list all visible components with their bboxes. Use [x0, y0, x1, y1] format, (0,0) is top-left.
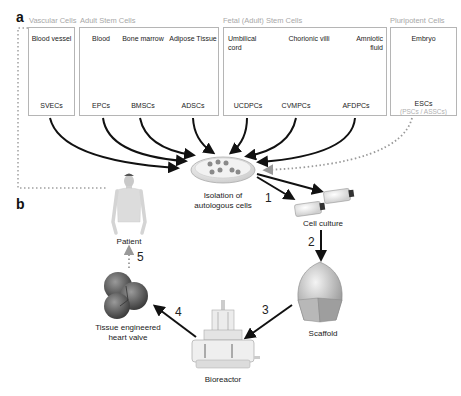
- source-adipose-tissue: Adipose Tissue: [168, 34, 218, 43]
- step-number-2: 2: [308, 235, 315, 249]
- cell-type-epcs: EPCs: [84, 102, 118, 109]
- cell-type-svecs: SVECs: [28, 102, 75, 109]
- petri-dish-icon: [191, 157, 255, 183]
- group-label-pluripotent: Pluripotent Cells: [390, 16, 445, 25]
- scaffold-label: Scaffold: [295, 329, 351, 339]
- cell-type-afdpcs: AFDPCs: [334, 102, 378, 109]
- group-label-adult: Adult Stem Cells: [80, 16, 135, 25]
- bioreactor-label: Bioreactor: [193, 375, 253, 385]
- source-umbilical-cord: Umbilical cord: [228, 34, 256, 52]
- source-bone-marrow: Bone marrow: [120, 34, 166, 43]
- step-number-1: 1: [265, 191, 272, 205]
- heart-valve-icon: [104, 272, 148, 319]
- source-blood: Blood: [84, 34, 118, 43]
- step-number-4: 4: [175, 305, 182, 319]
- cell-type-escs: ESCs: [390, 100, 457, 107]
- cell-type-adscs: ADSCs: [168, 102, 218, 109]
- patient-icon: [113, 174, 145, 234]
- cell-culture-label: Cell culture: [295, 219, 351, 229]
- group-label-vascular: Vascular Cells: [29, 16, 76, 25]
- panel-label-b: b: [16, 196, 25, 212]
- scaffold-icon: [298, 262, 342, 322]
- cell-type-cvmpcs: CVMPCs: [274, 102, 318, 109]
- step3-arrow: [247, 305, 292, 337]
- cell-type-ucdpcs: UCDPCs: [226, 102, 270, 109]
- esc-dotted-arrow: [266, 118, 412, 170]
- cell-type-escs-sub: (PSCs / ASSCs): [390, 108, 457, 115]
- cell-culture-flask-icon: [294, 188, 354, 217]
- source-blood-vessel: Blood vessel: [28, 34, 75, 43]
- step-number-5: 5: [137, 250, 144, 264]
- source-embryo: Embryo: [390, 34, 457, 43]
- source-amniotic-fluid: Amniotic fluid: [350, 34, 383, 52]
- step-number-3: 3: [262, 303, 269, 317]
- isolation-label: Isolation of autologous cells: [183, 191, 263, 211]
- group-label-fetal: Fetal (Adult) Stem Cells: [223, 16, 302, 25]
- source-chorionic-villi: Chorionic villi: [282, 34, 336, 43]
- heart-valve-label: Tissue engineered heart valve: [86, 323, 170, 343]
- patient-label: Patient: [107, 237, 151, 247]
- cell-type-bmscs: BMSCs: [120, 102, 166, 109]
- panel-label-a: a: [16, 9, 24, 25]
